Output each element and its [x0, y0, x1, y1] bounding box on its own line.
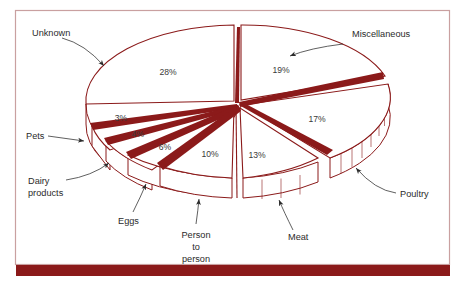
percent-label-unknown: 28% — [159, 67, 177, 77]
label-person-to-person-line1: Person — [181, 230, 210, 240]
percent-label-pets: 3% — [115, 113, 128, 123]
label-unknown: Unknown — [32, 28, 70, 38]
figure-canvas: 28% 19% 17% 13% 10% 6% 4% 3% Un — [0, 0, 461, 281]
label-eggs: Eggs — [118, 216, 139, 226]
label-poultry: Poultry — [400, 189, 429, 199]
label-meat: Meat — [288, 232, 309, 242]
percent-label-person-to-person: 10% — [201, 149, 219, 159]
percent-label-meat: 13% — [248, 150, 266, 160]
label-miscellaneous: Miscellaneous — [352, 29, 411, 39]
percent-label-dairy-products: 4% — [132, 129, 145, 139]
label-person-to-person-line2: to — [192, 242, 200, 252]
bottom-accent-bar — [16, 265, 450, 276]
label-pets: Pets — [26, 131, 45, 141]
label-dairy-products-line2: products — [28, 188, 64, 198]
percent-label-poultry: 17% — [308, 114, 326, 124]
label-person-to-person-line3: person — [182, 254, 210, 264]
label-dairy-products-line1: Dairy — [28, 176, 50, 186]
percent-label-miscellaneous: 19% — [272, 65, 290, 75]
percent-label-eggs: 6% — [159, 142, 172, 152]
